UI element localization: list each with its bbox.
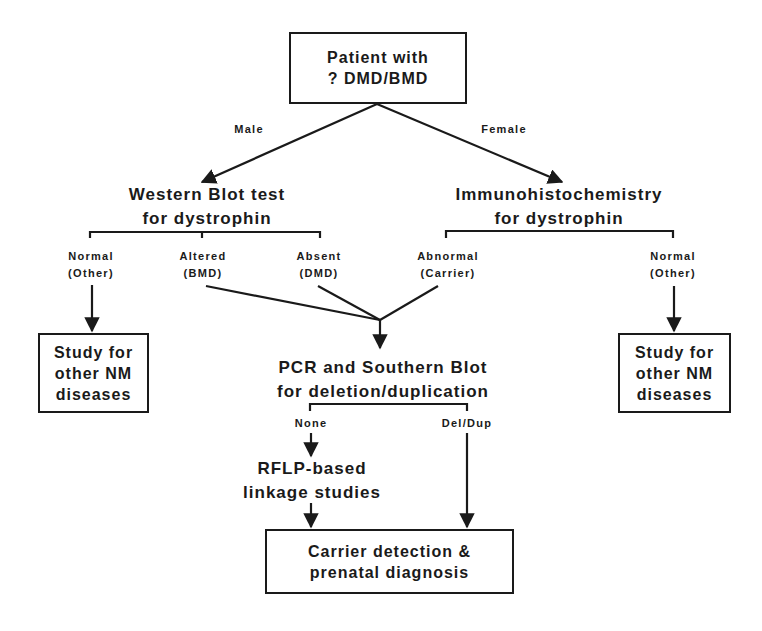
wb-line-2: for dystrophin [129, 207, 286, 231]
label-ih-normal: Normal (Other) [650, 248, 696, 282]
start-line-2: ? DMD/BMD [328, 68, 429, 89]
label-wb-altered: Altered (BMD) [180, 248, 227, 282]
pcr-bracket [310, 404, 467, 411]
start-box: Patient with ? DMD/BMD [289, 32, 467, 104]
edge-male [202, 104, 377, 182]
study-box-right: Study for other NM diseases [618, 333, 731, 413]
study-right-line: Study for [635, 342, 714, 363]
label-wb-absent: Absent (DMD) [296, 248, 341, 282]
label-text: Normal [650, 248, 696, 265]
study-left-line: Study for [54, 342, 133, 363]
label-text: (Other) [68, 265, 114, 282]
study-right-line: diseases [637, 384, 713, 405]
edge-altered [206, 286, 380, 320]
label-male: Male [234, 121, 264, 138]
pcr-line-2: for deletion/duplication [277, 380, 489, 404]
wb-bracket [90, 232, 320, 238]
study-box-left: Study for other NM diseases [38, 333, 149, 413]
label-wb-normal: Normal (Other) [68, 248, 114, 282]
wb-line-1: Western Blot test [129, 183, 286, 207]
label-text: (DMD) [296, 265, 341, 282]
label-text: Absent [296, 248, 341, 265]
rflp-line-1: RFLP-based [243, 457, 381, 481]
label-female: Female [481, 121, 527, 138]
label-none: None [295, 415, 328, 432]
label-text: Abnormal [417, 248, 479, 265]
immuno-node: Immunohistochemistry for dystrophin [455, 183, 662, 231]
carrier-line-1: Carrier detection & [308, 541, 471, 562]
label-text: (Other) [650, 265, 696, 282]
pcr-line-1: PCR and Southern Blot [277, 356, 489, 380]
study-right-line: other NM [636, 363, 713, 384]
label-ih-abnormal: Abnormal (Carrier) [417, 248, 479, 282]
ih-line-1: Immunohistochemistry [455, 183, 662, 207]
carrier-box: Carrier detection & prenatal diagnosis [265, 529, 514, 594]
label-deldup: Del/Dup [442, 415, 493, 432]
study-left-line: diseases [56, 384, 132, 405]
western-blot-node: Western Blot test for dystrophin [129, 183, 286, 231]
ih-bracket [446, 231, 673, 238]
label-text: (Carrier) [417, 265, 479, 282]
carrier-line-2: prenatal diagnosis [310, 562, 469, 583]
study-left-line: other NM [55, 363, 132, 384]
edge-female [377, 104, 562, 182]
start-line-1: Patient with [327, 47, 429, 68]
label-text: Altered [180, 248, 227, 265]
rflp-node: RFLP-based linkage studies [243, 457, 381, 505]
rflp-line-2: linkage studies [243, 481, 381, 505]
ih-line-2: for dystrophin [455, 207, 662, 231]
edge-abnormal [380, 286, 438, 320]
pcr-node: PCR and Southern Blot for deletion/dupli… [277, 356, 489, 404]
label-text: (BMD) [180, 265, 227, 282]
label-text: Normal [68, 248, 114, 265]
